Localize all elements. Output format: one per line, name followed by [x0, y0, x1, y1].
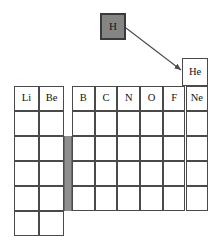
p-block-empty-cell-r2-c5[interactable]	[163, 111, 186, 136]
p-block-empty-cell-r4-c6[interactable]	[186, 161, 209, 186]
element-cell-ne[interactable]: Ne	[186, 86, 209, 111]
element-cell-f[interactable]: F	[163, 86, 186, 111]
p-block-empty-cell-r2-c6[interactable]	[186, 111, 209, 136]
p-block-empty-cell-r4-c4[interactable]	[140, 161, 163, 186]
element-cell-c[interactable]: C	[95, 86, 118, 111]
p-block-empty-cell-r2-c2[interactable]	[95, 111, 118, 136]
element-cell-b[interactable]: B	[72, 86, 95, 111]
hydrogen-callout-cell[interactable]: H	[100, 13, 126, 40]
p-block-empty-cell-r2-c4[interactable]	[140, 111, 163, 136]
s-block-empty-cell-r2-c2[interactable]	[39, 111, 64, 136]
s-block-empty-cell-r6-c1[interactable]	[14, 211, 39, 236]
s-block-empty-cell-r3-c2[interactable]	[39, 136, 64, 161]
arrow-hydrogen-to-helium	[126, 28, 181, 70]
p-block-empty-cell-r4-c2[interactable]	[95, 161, 118, 186]
s-block-empty-cell-r5-c2[interactable]	[39, 186, 64, 211]
p-block-empty-cell-r3-c2[interactable]	[95, 136, 118, 161]
p-block-empty-cell-r3-c6[interactable]	[186, 136, 209, 161]
p-block-empty-cell-r2-c1[interactable]	[72, 111, 95, 136]
s-block-empty-cell-r4-c1[interactable]	[14, 161, 39, 186]
element-cell-n[interactable]: N	[117, 86, 140, 111]
p-block-empty-cell-r2-c3[interactable]	[117, 111, 140, 136]
periodic-table-figure: H He LiBeBCNOFNe	[0, 0, 209, 242]
element-cell-he[interactable]: He	[182, 58, 208, 86]
p-block-empty-cell-r3-c3[interactable]	[117, 136, 140, 161]
p-block-empty-cell-r4-c5[interactable]	[163, 161, 186, 186]
element-cell-o[interactable]: O	[140, 86, 163, 111]
d-block-spacer-bar	[64, 136, 72, 211]
p-block-empty-cell-r4-c1[interactable]	[72, 161, 95, 186]
p-block-empty-cell-r5-c4[interactable]	[140, 186, 163, 211]
p-block-empty-cell-r5-c2[interactable]	[95, 186, 118, 211]
s-block-empty-cell-r5-c1[interactable]	[14, 186, 39, 211]
p-block-empty-cell-r4-c3[interactable]	[117, 161, 140, 186]
s-block-empty-cell-r2-c1[interactable]	[14, 111, 39, 136]
p-block-empty-cell-r5-c3[interactable]	[117, 186, 140, 211]
s-block-empty-cell-r3-c1[interactable]	[14, 136, 39, 161]
p-block-empty-cell-r3-c5[interactable]	[163, 136, 186, 161]
p-block-empty-cell-r5-c6[interactable]	[186, 186, 209, 211]
p-block-empty-cell-r5-c5[interactable]	[163, 186, 186, 211]
s-block-empty-cell-r4-c2[interactable]	[39, 161, 64, 186]
element-cell-be[interactable]: Be	[39, 86, 64, 111]
p-block-empty-cell-r5-c1[interactable]	[72, 186, 95, 211]
p-block-empty-cell-r3-c1[interactable]	[72, 136, 95, 161]
s-block-empty-cell-r6-c2[interactable]	[39, 211, 64, 236]
element-cell-li[interactable]: Li	[14, 86, 39, 111]
p-block-empty-cell-r3-c4[interactable]	[140, 136, 163, 161]
